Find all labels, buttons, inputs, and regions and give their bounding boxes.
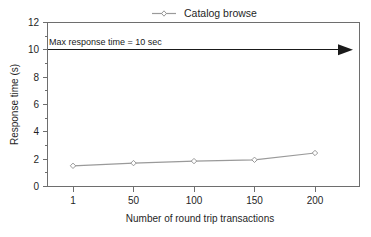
x-axis-title: Number of round trip transactions <box>126 213 274 224</box>
x-axis-label-50: 50 <box>128 195 140 206</box>
y-axis-label-8: 8 <box>33 72 39 83</box>
response-time-line-chart: Catalog browse 12 10 8 6 <box>0 0 371 237</box>
y-axis-label-0: 0 <box>33 181 39 192</box>
legend-label-catalog-browse: Catalog browse <box>184 7 257 19</box>
y-axis-title: Response time (s) <box>9 64 20 145</box>
y-axis-label-4: 4 <box>33 126 39 137</box>
x-axis-label-150: 150 <box>246 195 263 206</box>
chart-figure: Catalog browse 12 10 8 6 <box>0 0 371 237</box>
x-axis-label-200: 200 <box>307 195 324 206</box>
max-response-time-label: Max response time = 10 sec <box>49 37 162 47</box>
y-axis-label-12: 12 <box>28 17 40 28</box>
x-axis-label-100: 100 <box>186 195 203 206</box>
y-axis-label-2: 2 <box>33 154 39 165</box>
y-axis-label-6: 6 <box>33 99 39 110</box>
y-axis-label-10: 10 <box>28 44 40 55</box>
x-axis-label-1: 1 <box>70 195 76 206</box>
